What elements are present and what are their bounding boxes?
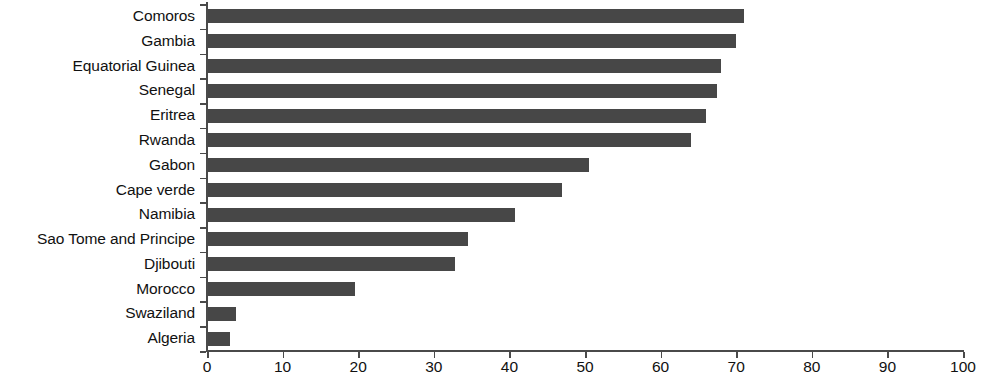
y-axis-tick: [200, 103, 206, 105]
bar-gambia: [207, 34, 736, 48]
y-axis-category-labels: ComorosGambiaEquatorial GuineaSenegalEri…: [0, 0, 201, 351]
y-axis-tick: [200, 4, 206, 6]
bar-morocco: [207, 282, 355, 296]
bar-namibia: [207, 208, 515, 222]
y-axis-tick: [200, 277, 206, 279]
y-axis-label: Sao Tome and Principe: [37, 227, 195, 252]
bar-sao-tome-and-principe: [207, 232, 468, 246]
bar-eritrea: [207, 109, 706, 123]
y-axis-tick: [200, 153, 206, 155]
y-axis-tick: [200, 252, 206, 254]
plot-area: [207, 4, 963, 351]
x-axis-tick-label: 100: [950, 358, 976, 376]
bar-swaziland: [207, 307, 236, 321]
y-axis-label: Gabon: [149, 153, 195, 178]
y-axis-label: Eritrea: [150, 103, 195, 128]
bar-gabon: [207, 158, 589, 172]
y-axis-label: Swaziland: [125, 301, 195, 326]
x-axis-tick-label: 0: [203, 358, 212, 376]
y-axis-tick: [200, 301, 206, 303]
y-axis-line: [206, 2, 208, 352]
bar-senegal: [207, 84, 717, 98]
bar-comoros: [207, 9, 744, 23]
bar-equatorial-guinea: [207, 59, 721, 73]
y-axis-tick: [200, 29, 206, 31]
y-axis-tick: [200, 351, 206, 353]
y-axis-label: Namibia: [139, 202, 195, 227]
y-axis-tick: [200, 78, 206, 80]
y-axis-label: Gambia: [141, 29, 195, 54]
x-axis-tick-label: 90: [879, 358, 896, 376]
y-axis-tick: [200, 326, 206, 328]
x-axis-tick-label: 30: [425, 358, 442, 376]
x-axis-tick-label: 50: [576, 358, 593, 376]
y-axis-label: Comoros: [133, 4, 195, 29]
y-axis-label: Rwanda: [139, 128, 195, 153]
bar-cape-verde: [207, 183, 562, 197]
y-axis-tick: [200, 202, 206, 204]
y-axis-tick: [200, 128, 206, 130]
y-axis-tick: [200, 178, 206, 180]
bar-djibouti: [207, 257, 455, 271]
y-axis-label: Djibouti: [144, 252, 195, 277]
bar-algeria: [207, 332, 230, 346]
y-axis-label: Senegal: [139, 78, 195, 103]
y-axis-label: Algeria: [147, 326, 195, 351]
x-axis-tick-label: 10: [274, 358, 291, 376]
x-axis-tick-label: 20: [350, 358, 367, 376]
y-axis-label: Cape verde: [116, 178, 195, 203]
x-axis-tick-label: 40: [501, 358, 518, 376]
x-axis-tick-label: 60: [652, 358, 669, 376]
y-axis-tick: [200, 54, 206, 56]
bar-rwanda: [207, 133, 691, 147]
x-axis-tick-label: 80: [803, 358, 820, 376]
bar-chart: ComorosGambiaEquatorial GuineaSenegalEri…: [0, 0, 981, 379]
x-axis-tick-label: 70: [728, 358, 745, 376]
y-axis-tick: [200, 227, 206, 229]
y-axis-label: Morocco: [136, 277, 195, 302]
y-axis-label: Equatorial Guinea: [73, 54, 195, 79]
